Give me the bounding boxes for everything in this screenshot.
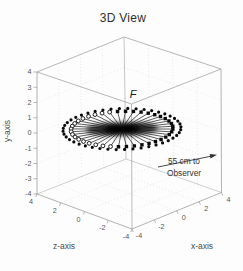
- ring-dot: [72, 140, 75, 143]
- filled-square-marker: [124, 109, 127, 112]
- x-axis-label: x-axis: [191, 241, 213, 251]
- tick-mark: [83, 212, 84, 215]
- edge-bottom-back-left: [37, 159, 126, 194]
- open-circle-marker: [101, 144, 105, 148]
- y-tick-label: 1: [28, 113, 32, 122]
- ring-dot: [61, 130, 64, 133]
- ring-dot: [139, 146, 142, 149]
- filled-square-marker: [139, 110, 142, 113]
- open-circle-marker: [81, 117, 85, 121]
- edge-top-left: [37, 37, 124, 72]
- focus-point-label: F: [130, 88, 138, 100]
- ring-dot: [63, 124, 66, 127]
- filled-square-marker: [154, 140, 157, 143]
- annotation-line-2: Observer: [167, 168, 201, 178]
- edge-top-right: [124, 37, 221, 69]
- filled-square-marker: [153, 113, 156, 116]
- grid-floor-x: [85, 176, 174, 212]
- filled-square-marker: [132, 110, 135, 113]
- ring-dot: [69, 118, 72, 121]
- filled-square-marker: [159, 138, 162, 141]
- ring-dot: [78, 142, 81, 145]
- tick-mark: [36, 194, 37, 197]
- chart-title: 3D View: [100, 11, 147, 25]
- filled-square-marker: [116, 110, 119, 113]
- open-circle-marker: [108, 110, 112, 114]
- open-circle-marker: [77, 137, 81, 141]
- grid-left-wall-v: [59, 63, 60, 185]
- filled-square-marker: [164, 117, 167, 120]
- annotation-line-1: 55 cm to: [168, 156, 200, 166]
- filled-square-marker: [147, 111, 150, 114]
- y-tick-label: 0: [28, 128, 32, 137]
- ring-dot: [176, 119, 179, 122]
- z-tick-label: 2: [53, 206, 57, 215]
- z-axis-label: z-axis: [53, 241, 75, 251]
- tick-mark: [107, 220, 108, 223]
- open-circle-marker: [100, 111, 104, 115]
- filled-square-marker: [125, 145, 128, 148]
- figure-3d-view: 43210-1-2-3-4420-2-4-4-2024 3D View F y-…: [0, 0, 243, 271]
- plot-canvas: 43210-1-2-3-4420-2-4-4-2024 3D View F y-…: [0, 0, 243, 271]
- filled-square-marker: [140, 143, 143, 146]
- ring-dot: [178, 131, 181, 134]
- ring-dot: [179, 125, 182, 128]
- z-tick-label: 4: [29, 197, 33, 206]
- open-circle-marker: [93, 113, 97, 117]
- arrow-head: [210, 154, 217, 158]
- z-tick-label: -4: [123, 232, 129, 241]
- tick-mark: [222, 193, 223, 196]
- filled-square-marker: [159, 115, 162, 118]
- ring-dot: [142, 108, 145, 111]
- disk-group: [61, 105, 183, 152]
- ring-dot: [169, 114, 172, 117]
- y-tick-label: -1: [25, 144, 31, 153]
- filled-square-marker: [164, 135, 167, 138]
- ring-dot: [66, 121, 69, 124]
- ring-dot: [161, 141, 164, 144]
- tick-mark: [177, 211, 178, 214]
- ring-dot: [171, 137, 174, 140]
- y-axis-label: y-axis: [2, 120, 12, 142]
- source-ring-disk: [61, 105, 183, 152]
- ring-dot: [147, 145, 150, 148]
- edge-top-front-left: [37, 72, 132, 104]
- tick-mark: [132, 229, 133, 232]
- grid-floor-x: [61, 167, 150, 202]
- ring-dot: [62, 133, 65, 136]
- open-circle-marker: [73, 135, 77, 139]
- open-circle-marker: [82, 140, 86, 144]
- x-tick-label: 0: [182, 213, 186, 222]
- open-circle-marker: [87, 114, 91, 118]
- ring-dot: [175, 134, 178, 137]
- open-circle-marker: [94, 143, 98, 147]
- y-tick-label: -3: [25, 174, 31, 183]
- ring-dot: [74, 116, 77, 119]
- y-tick-label: 2: [28, 98, 32, 107]
- ring-dot: [163, 112, 166, 115]
- axis-ticks: 43210-1-2-3-4420-2-4-4-2024: [25, 67, 230, 241]
- ring-dot: [98, 147, 101, 150]
- ring-dot: [167, 139, 170, 142]
- tick-mark: [199, 202, 200, 205]
- edge-vertical-right: [221, 69, 222, 193]
- tick-mark: [154, 220, 155, 223]
- ring-dot: [150, 109, 153, 112]
- open-circle-marker: [109, 145, 113, 149]
- y-tick-label: -2: [25, 159, 31, 168]
- ring-dot: [65, 135, 68, 138]
- filled-square-marker: [133, 144, 136, 147]
- y-tick-label: 3: [28, 83, 32, 92]
- ring-dot: [91, 146, 94, 149]
- x-tick-label: 2: [204, 204, 208, 213]
- x-tick-label: 4: [227, 195, 231, 204]
- tick-mark: [60, 203, 61, 206]
- filled-square-marker: [167, 119, 170, 122]
- open-circle-marker: [87, 141, 91, 145]
- ring-dot: [62, 127, 65, 130]
- ring-dot: [179, 128, 182, 131]
- filled-square-marker: [171, 127, 174, 130]
- filled-square-marker: [117, 145, 120, 148]
- ring-dot: [157, 110, 160, 113]
- z-tick-label: 0: [77, 215, 81, 224]
